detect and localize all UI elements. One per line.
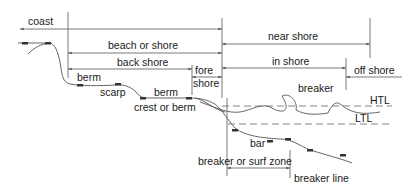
off-shore-dimension: off shore [346, 64, 402, 77]
in-shore-dimension: in shore [222, 55, 346, 68]
off-shore-label: off shore [354, 64, 395, 76]
berm-upper-label: berm [77, 71, 101, 83]
berm-lower-label: berm [154, 86, 178, 98]
crest-or-berm-label: crest or berm [134, 101, 196, 113]
beach-or-shore-label: beach or shore [108, 39, 178, 51]
near-shore-label: near shore [268, 30, 318, 42]
fore-shore-dimension: fore shore [192, 64, 222, 89]
coast-dimension: coast [20, 15, 222, 29]
near-shore-dimension: near shore [222, 30, 370, 44]
ltl-label: LTL [355, 112, 372, 124]
fore-shore-label-line1: fore [195, 64, 213, 76]
fore-shore-label-line2: shore [193, 77, 219, 89]
breaker-or-surf-zone-dimension: breaker or surf zone [198, 155, 292, 168]
breaker-line-label: breaker line [294, 172, 349, 184]
breaker-or-surf-zone-label: breaker or surf zone [198, 155, 292, 167]
breaker-label: breaker [298, 82, 334, 94]
coastal-profile-diagram: coast beach or shore near shore back sho… [0, 0, 418, 193]
beach-or-shore-dimension: beach or shore [68, 39, 222, 53]
bar-label: bar [250, 137, 266, 149]
htl-label: HTL [370, 94, 390, 106]
in-shore-label: in shore [272, 55, 310, 67]
coast-label: coast [28, 15, 53, 27]
scarp-label: scarp [100, 86, 126, 98]
tide-lines: HTL LTL [222, 94, 392, 124]
back-shore-label: back shore [117, 56, 169, 68]
back-shore-dimension: back shore [68, 56, 192, 69]
